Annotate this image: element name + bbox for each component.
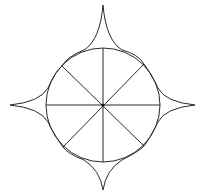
spike-bottom-right-curve [103,146,144,190]
center-point [101,103,104,106]
spike-bottom-left-curve [63,147,103,190]
spike-top-right-curve [103,5,144,64]
spike-left-bottom-curve [10,105,63,147]
diagram-canvas [0,0,200,195]
spike-right-bottom-curve [144,105,195,146]
spike-top-left-curve [62,5,103,66]
spike-right-top-curve [144,64,195,105]
spike-left-top-curve [10,66,62,105]
